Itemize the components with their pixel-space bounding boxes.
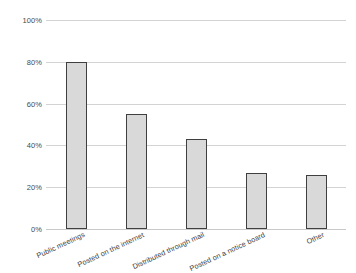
bar [126,114,147,229]
y-tick-label: 80% [2,57,42,66]
y-tick-label: 20% [2,183,42,192]
bar [186,139,207,229]
y-tick-label: 60% [2,99,42,108]
y-tick-label: 100% [2,16,42,25]
gridline-0pct [46,229,346,230]
bar [246,173,267,229]
plot-area [46,20,346,229]
bars-layer [46,20,346,229]
bar [306,175,327,229]
x-axis-label: Other [305,230,326,246]
x-axis-label: Public meetings [35,230,86,260]
x-axis-category-labels: Public meetingsPosted on the internetDis… [0,232,356,270]
y-tick-label: 40% [2,141,42,150]
bar [66,62,87,229]
